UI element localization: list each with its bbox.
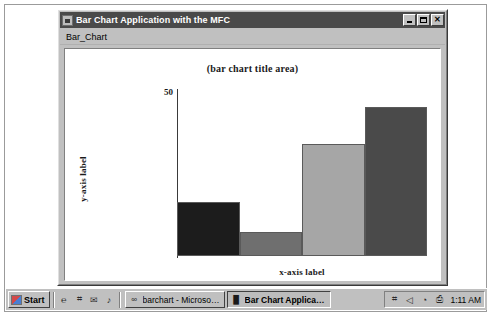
window-title: Bar Chart Application with the MFC	[76, 15, 402, 25]
app-icon	[62, 15, 73, 26]
taskbar: Start ℮⌗✉♪ ∞barchart - Microsoft Devel..…	[6, 288, 487, 310]
windows-flag-icon	[11, 295, 22, 305]
visual-studio-icon: ∞	[129, 294, 140, 305]
bar-1	[177, 202, 240, 256]
clock-tray-icon[interactable]: ◔	[418, 294, 430, 306]
bar-2	[240, 232, 303, 256]
x-axis-label: x-axis label	[177, 267, 427, 277]
app-icon: █	[231, 294, 242, 305]
outlook-express-icon[interactable]: ✉	[88, 293, 101, 306]
system-tray: ⌗◁◔⎙ 1:11 AM	[384, 291, 485, 308]
taskbar-button-1[interactable]: ∞barchart - Microsoft Devel...	[125, 291, 225, 308]
volume-icon[interactable]: ◁	[403, 294, 415, 306]
bar-3	[302, 144, 365, 256]
media-player-icon[interactable]: ♪	[103, 293, 116, 306]
screen: Bar Chart Application with the MFC ✕ Bar…	[0, 0, 500, 326]
clock: 1:11 AM	[448, 295, 481, 305]
maximize-glyph	[420, 17, 427, 23]
task-button-list: ∞barchart - Microsoft Devel...█Bar Chart…	[125, 291, 383, 308]
tray-icon-list: ⌗◁◔⎙	[388, 294, 445, 306]
close-glyph: ✕	[432, 16, 443, 23]
desktop: Bar Chart Application with the MFC ✕ Bar…	[4, 4, 487, 312]
printer-icon[interactable]: ⎙	[433, 294, 445, 306]
minimize-icon[interactable]	[403, 14, 416, 26]
bar-chart: (bar chart title area) 50 y-axis label x…	[65, 49, 440, 280]
show-desktop-icon[interactable]: ⌗	[73, 293, 86, 306]
taskbar-button-label: barchart - Microsoft Devel...	[143, 295, 221, 305]
taskbar-button-2[interactable]: █Bar Chart Application...	[227, 291, 331, 308]
bar-4	[365, 107, 428, 256]
menu-bar: Bar_Chart	[60, 30, 445, 45]
start-button[interactable]: Start	[8, 291, 50, 308]
bars-group	[65, 49, 440, 280]
taskbar-button-label: Bar Chart Application...	[245, 295, 327, 305]
internet-explorer-icon[interactable]: ℮	[58, 293, 71, 306]
minimize-glyph	[407, 21, 412, 23]
quick-launch-bar: ℮⌗✉♪	[58, 293, 116, 306]
menu-item-bar-chart[interactable]: Bar_Chart	[65, 31, 111, 43]
network-icon[interactable]: ⌗	[388, 294, 400, 306]
taskbar-separator-1	[53, 292, 55, 308]
client-area: (bar chart title area) 50 y-axis label x…	[64, 48, 441, 281]
start-button-label: Start	[24, 295, 45, 305]
title-bar[interactable]: Bar Chart Application with the MFC ✕	[60, 12, 445, 28]
close-icon[interactable]: ✕	[431, 14, 444, 26]
maximize-icon[interactable]	[417, 14, 430, 26]
application-window: Bar Chart Application with the MFC ✕ Bar…	[57, 9, 448, 286]
taskbar-separator-2	[119, 292, 121, 308]
